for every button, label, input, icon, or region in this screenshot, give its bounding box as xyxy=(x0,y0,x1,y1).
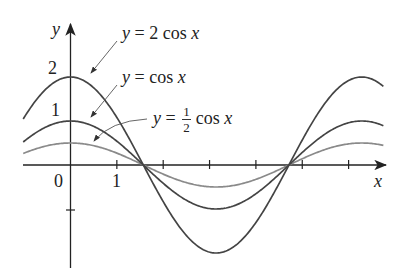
y-tick-label-1: 1 xyxy=(51,101,60,119)
eq1-rest: = 2 cos xyxy=(130,23,191,43)
eq3-eq: = xyxy=(161,108,180,128)
x-tick-label-1: 1 xyxy=(112,172,121,190)
legend-2cos: y = 2 cos x xyxy=(122,24,199,42)
eq2-rest: = cos xyxy=(130,67,178,87)
eq1-x: x xyxy=(191,23,199,43)
legend-cos: y = cos x xyxy=(122,68,186,86)
x-axis-label: x xyxy=(374,172,382,190)
eq1-y: y xyxy=(122,23,130,43)
legend-half-cos: y = 12cos x xyxy=(153,105,232,134)
eq3-cos: cos xyxy=(196,108,225,128)
pointer-arrow-2cos xyxy=(91,41,117,73)
eq3-x: x xyxy=(224,108,232,128)
y-axis-label: y xyxy=(52,20,60,38)
fraction-one-half: 12 xyxy=(182,105,191,134)
y-tick-label-2: 2 xyxy=(48,59,57,77)
eq3-y: y xyxy=(153,108,161,128)
eq2-y: y xyxy=(122,67,130,87)
origin-label: 0 xyxy=(54,172,63,190)
eq2-x: x xyxy=(178,67,186,87)
cosine-graph xyxy=(0,0,406,275)
